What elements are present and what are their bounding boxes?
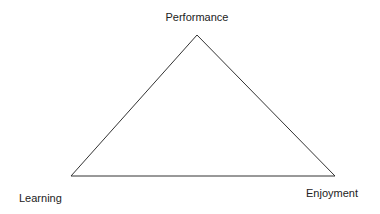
vertex-label-performance: Performance: [160, 11, 234, 24]
diagram-canvas: Performance Learning Enjoyment: [0, 0, 380, 214]
triangle-outline: [71, 35, 335, 176]
triangle-shape: [0, 0, 380, 214]
vertex-label-learning: Learning: [19, 192, 62, 205]
vertex-label-enjoyment: Enjoyment: [306, 187, 358, 200]
